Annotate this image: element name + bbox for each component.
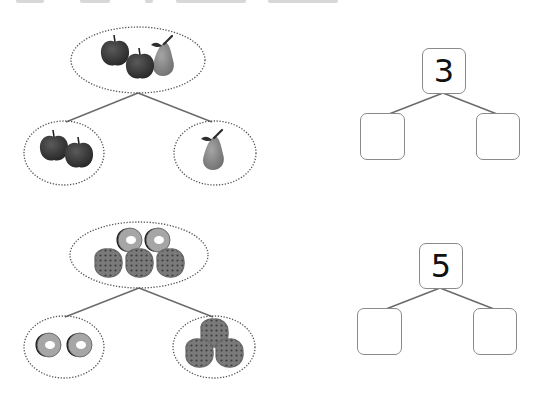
apple-icon <box>126 48 154 79</box>
bond-2-whole-box: 5 <box>419 243 463 289</box>
donut-icon <box>35 333 61 357</box>
bond-line <box>443 93 497 114</box>
bond-2-part-left-box[interactable] <box>357 308 402 355</box>
bond-1-whole-box: 3 <box>422 48 466 94</box>
apple-icon <box>65 137 93 168</box>
bond-line <box>386 288 440 309</box>
problem-1-fruit <box>24 27 256 185</box>
waffle-icon <box>216 339 243 367</box>
bond-1-part-left-box[interactable] <box>360 113 405 160</box>
pear-icon <box>201 130 224 170</box>
apple-icon <box>101 35 129 66</box>
connector-line <box>65 288 139 317</box>
donut-icon <box>66 333 92 357</box>
bond-line <box>440 288 494 309</box>
waffle-icon <box>126 249 153 277</box>
apple-icon <box>40 130 68 161</box>
connector-line <box>138 93 212 122</box>
waffle-icon <box>186 339 213 367</box>
waffle-icon <box>157 249 184 277</box>
problem-2-treats <box>24 222 255 378</box>
connector-line <box>66 93 138 122</box>
bond-line <box>389 93 443 114</box>
bond-2-part-right-box[interactable] <box>473 308 517 355</box>
bond-1-part-right-box[interactable] <box>476 113 520 160</box>
pear-icon <box>151 36 174 76</box>
waffle-icon <box>95 249 122 277</box>
connector-line <box>139 288 213 317</box>
